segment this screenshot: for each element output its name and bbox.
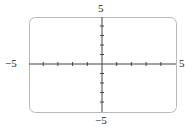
coordinate-plane [0,0,194,130]
x-max-label: 5 [179,58,185,69]
y-max-label: 5 [98,3,104,14]
x-min-label: −5 [5,58,17,69]
y-min-label: −5 [95,115,107,126]
viewing-window-frame [30,18,177,113]
